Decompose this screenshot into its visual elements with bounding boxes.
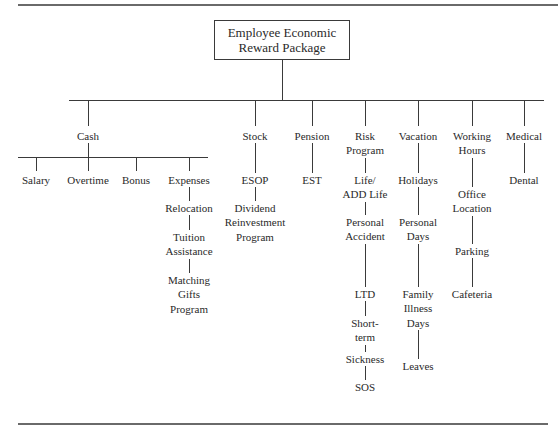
node-est: EST	[302, 173, 322, 187]
node-bonus: Bonus	[122, 173, 150, 187]
root-line-1: Employee Economic	[228, 25, 337, 40]
node-label: Vacation	[399, 129, 437, 143]
node-cafeteria: Cafeteria	[452, 287, 492, 301]
root-connector	[282, 60, 283, 100]
node-medical: Medical	[506, 129, 542, 143]
drop-pension	[312, 100, 313, 126]
node-label: Cash	[77, 129, 99, 143]
conn-vacation-holidays	[418, 143, 419, 173]
conn-parking-cafeteria	[472, 258, 473, 287]
top-rule	[18, 4, 558, 6]
node-pension: Pension	[295, 129, 330, 143]
node-label: Days	[402, 316, 433, 330]
node-holidays: Holidays	[398, 173, 438, 187]
node-risk-program: Risk Program	[346, 129, 384, 158]
node-label: term	[351, 330, 379, 344]
node-label: Parking	[455, 244, 489, 258]
drop-overtime	[88, 157, 89, 171]
node-label: Assistance	[165, 244, 212, 258]
node-salary: Salary	[22, 173, 50, 187]
conn-relocation-tuition	[189, 215, 190, 230]
node-label: Program	[346, 143, 384, 157]
conn-stock-esop	[255, 143, 256, 173]
drop-stock	[255, 100, 256, 126]
node-leaves: Leaves	[402, 359, 433, 373]
drop-working	[472, 100, 473, 126]
node-dental: Dental	[509, 173, 538, 187]
drop-salary	[36, 157, 37, 171]
conn-sickness-sos	[365, 366, 366, 380]
node-label: Short-	[351, 316, 379, 330]
conn-tuition-matching	[189, 258, 190, 273]
node-label: EST	[302, 173, 322, 187]
cash-to-subbus	[88, 143, 89, 157]
node-relocation: Relocation	[165, 201, 213, 215]
node-label: Salary	[22, 173, 50, 187]
node-overtime: Overtime	[67, 173, 109, 187]
node-personal-days: Personal Days	[399, 215, 437, 244]
conn-ltd-short	[365, 301, 366, 316]
conn-holidays-personal	[418, 187, 419, 215]
node-ltd: LTD	[355, 287, 375, 301]
conn-personal-ltd	[365, 244, 366, 287]
conn-esop-dividend	[255, 187, 256, 201]
conn-expenses-relocation	[189, 187, 190, 201]
node-working-hours: Working Hours	[453, 129, 491, 158]
node-label: Family	[402, 287, 433, 301]
drop-bonus	[136, 157, 137, 171]
conn-short-sickness	[365, 344, 366, 352]
root-line-2: Reward Package	[239, 40, 326, 55]
node-cash: Cash	[77, 129, 99, 143]
drop-risk	[365, 100, 366, 126]
node-label: ESOP	[242, 173, 269, 187]
node-label: Accident	[345, 229, 385, 243]
node-label: Days	[399, 229, 437, 243]
node-label: Holidays	[398, 173, 438, 187]
node-sos: SOS	[355, 380, 375, 394]
node-matching-gifts-program: Matching Gifts Program	[168, 273, 210, 316]
node-label: Illness	[402, 301, 433, 315]
node-label: Tuition	[165, 230, 212, 244]
node-label: Overtime	[67, 173, 109, 187]
node-label: Pension	[295, 129, 330, 143]
node-label: Bonus	[122, 173, 150, 187]
node-label: Office	[452, 187, 491, 201]
node-label: ADD Life	[343, 187, 388, 201]
node-label: Program	[168, 302, 210, 316]
node-short-term: Short- term	[351, 316, 379, 345]
conn-personal-family	[418, 244, 419, 287]
node-label: Cafeteria	[452, 287, 492, 301]
node-vacation: Vacation	[399, 129, 437, 143]
drop-expenses	[189, 157, 190, 171]
node-label: Dividend	[225, 201, 286, 215]
drop-medical	[524, 100, 525, 126]
node-label: Personal	[399, 215, 437, 229]
root-node-employee-economic-reward-package: Employee Economic Reward Package	[214, 20, 350, 60]
conn-office-parking	[472, 215, 473, 244]
node-label: Hours	[453, 143, 491, 157]
node-personal-accident: Personal Accident	[345, 215, 385, 244]
conn-pension-est	[312, 143, 313, 173]
node-label: Personal	[345, 215, 385, 229]
node-label: Expenses	[168, 173, 210, 187]
node-stock: Stock	[242, 129, 267, 143]
node-label: Matching	[168, 273, 210, 287]
node-office-location: Office Location	[452, 187, 491, 216]
conn-family-leaves	[418, 330, 419, 359]
node-family-illness-days: Family Illness Days	[402, 287, 433, 330]
drop-cash	[88, 100, 89, 126]
cash-subbus	[18, 157, 208, 158]
node-life-add-life: Life/ ADD Life	[343, 173, 388, 202]
drop-vacation	[418, 100, 419, 126]
node-label: SOS	[355, 380, 375, 394]
node-label: LTD	[355, 287, 375, 301]
node-label: Stock	[242, 129, 267, 143]
node-tuition-assistance: Tuition Assistance	[165, 230, 212, 259]
node-label: Leaves	[402, 359, 433, 373]
conn-medical-dental	[524, 143, 525, 173]
node-label: Relocation	[165, 201, 213, 215]
conn-life-personal	[365, 201, 366, 215]
node-label: Sickness	[346, 352, 385, 366]
node-label: Reinvestment	[225, 215, 286, 229]
node-label: Risk	[346, 129, 384, 143]
